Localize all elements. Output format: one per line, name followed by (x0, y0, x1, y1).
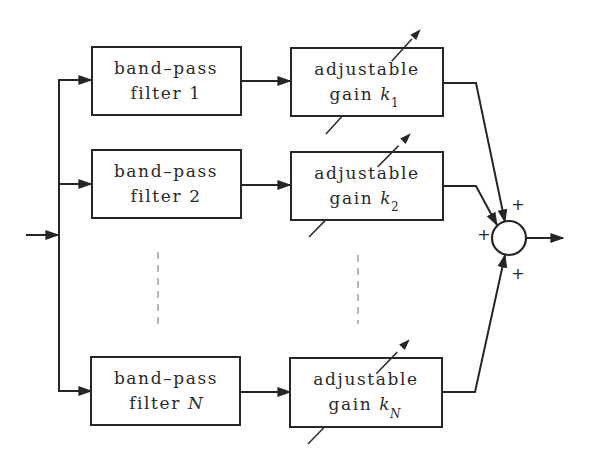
gain-2-subscript: 2 (391, 200, 399, 214)
gain-1-to-sum-wire (443, 83, 505, 222)
branch-2: band–pass filter 2 adjustable gain k 2 (92, 134, 497, 237)
filter-1-line1: band–pass (114, 58, 218, 78)
equalizer-block-diagram: band–pass filter 1 adjustable gain k 1 b… (0, 0, 595, 468)
filter-2-line2: filter 2 (130, 186, 201, 206)
filter-n-line1: band–pass (114, 368, 218, 388)
gain-2-line1: adjustable (314, 163, 419, 183)
filter-1-line2: filter 1 (130, 83, 201, 103)
filter-n-line2: filter N (129, 393, 204, 413)
gain-1-line2: gain k (329, 84, 390, 104)
gain-n-line2: gain k (328, 394, 389, 414)
sum-sign-bottom: + (511, 264, 524, 283)
gain-n-subscript: N (389, 407, 401, 421)
gain-n-line1: adjustable (313, 369, 418, 389)
gain-2-line2: gain k (329, 188, 390, 208)
sum-sign-top: + (511, 195, 524, 214)
summing-junction-circle (492, 221, 526, 255)
gain-1-line1: adjustable (314, 59, 419, 79)
gain-2-to-sum-wire (443, 186, 497, 225)
sum-sign-left: + (477, 225, 490, 244)
gain-n-to-sum-wire (442, 255, 505, 392)
branch-n: band–pass filter N adjustable gain k N (91, 255, 505, 444)
filter-2-line1: band–pass (114, 161, 218, 181)
gain-1-subscript: 1 (391, 96, 399, 110)
